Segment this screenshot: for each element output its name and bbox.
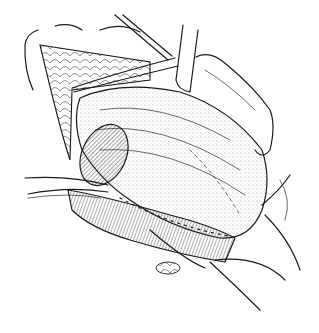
- retractor-vertical: [176, 25, 198, 92]
- illustration-canvas: [0, 0, 319, 333]
- surgical-illustration: [0, 0, 319, 333]
